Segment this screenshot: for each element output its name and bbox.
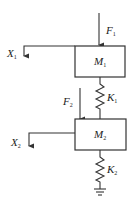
mass-spring-diagram: F1 X1 M1 K1 F2 X2 M2 K2	[0, 0, 134, 208]
spring-k1-label: K1	[106, 91, 117, 104]
displacement-x1-arrow	[24, 46, 75, 56]
mass-m1: M1	[75, 46, 125, 77]
force-f2: F2	[62, 88, 80, 119]
spring-k1-coil	[96, 77, 104, 119]
spring-k1: K1	[96, 77, 117, 119]
force-f1: F1	[99, 13, 116, 45]
mass-m2: M2	[75, 119, 126, 150]
spring-k2-label: K2	[106, 163, 117, 176]
force-f2-label: F2	[62, 95, 73, 108]
displacement-x1: X1	[6, 46, 75, 60]
ground-icon	[94, 189, 106, 195]
displacement-x2-arrow	[29, 133, 75, 146]
spring-k2-coil	[96, 150, 104, 189]
force-f1-label: F1	[105, 24, 116, 37]
displacement-x2-label: X2	[10, 136, 21, 149]
spring-k2: K2	[96, 150, 117, 189]
displacement-x2: X2	[10, 133, 75, 149]
displacement-x1-label: X1	[6, 47, 17, 60]
